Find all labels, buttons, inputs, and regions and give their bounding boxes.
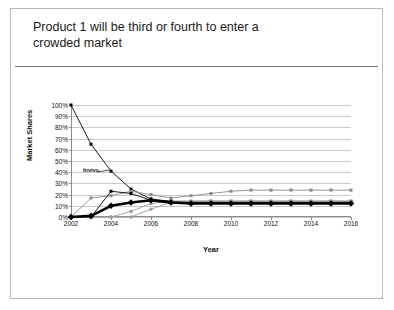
market-share-chart: Market Shares Year 0%10%20%30%40%50%60%7… [23, 87, 372, 277]
data-point [290, 189, 293, 192]
data-point [130, 210, 133, 213]
title-divider [15, 66, 378, 67]
data-point [90, 196, 93, 199]
y-tick-label: 20% [55, 191, 68, 198]
y-tick-label: 50% [55, 158, 68, 165]
data-point [270, 189, 273, 192]
y-axis-label: Market Shares [25, 110, 34, 161]
data-point [128, 199, 135, 206]
x-tick-mark [191, 217, 192, 220]
y-tick-label: 90% [55, 113, 68, 120]
x-tick-mark [351, 217, 352, 220]
slide: Product 1 will be third or fourth to ent… [10, 8, 383, 299]
x-tick-label: 2010 [224, 220, 238, 227]
y-tick-label: 100% [51, 102, 68, 109]
x-tick-label: 2004 [104, 220, 118, 227]
x-tick-label: 2016 [344, 220, 358, 227]
y-tick-label: 80% [55, 124, 68, 131]
data-point [210, 192, 213, 195]
data-point [310, 189, 313, 192]
x-tick-label: 2002 [64, 220, 78, 227]
x-tick-label: 2008 [184, 220, 198, 227]
x-tick-mark [271, 217, 272, 220]
x-tick-mark [231, 217, 232, 220]
x-tick-label: 2012 [264, 220, 278, 227]
y-tick-label: 70% [55, 135, 68, 142]
y-tick-label: 40% [55, 169, 68, 176]
data-point [330, 189, 333, 192]
x-axis-label: Year [203, 245, 219, 254]
data-point [130, 192, 133, 195]
y-tick-label: 60% [55, 146, 68, 153]
x-tick-label: 2014 [304, 220, 318, 227]
data-point [90, 143, 93, 146]
title-block: Product 1 will be third or fourth to ent… [33, 19, 363, 51]
data-point [110, 216, 113, 219]
data-point [168, 199, 175, 206]
data-point [110, 194, 113, 197]
y-tick-label: 30% [55, 180, 68, 187]
series-layer [71, 105, 351, 217]
page-title: Product 1 will be third or fourth to ent… [33, 19, 363, 51]
data-point [170, 196, 173, 199]
data-point [110, 170, 113, 173]
x-tick-mark [151, 217, 152, 220]
x-tick-label: 2006 [144, 220, 158, 227]
series-annotation-invivo: Invivo [83, 167, 99, 173]
data-point [350, 189, 353, 192]
data-point [110, 190, 113, 193]
data-point [230, 190, 233, 193]
data-point [70, 104, 73, 107]
plot-area: 0%10%20%30%40%50%60%70%80%90%100% 200220… [71, 105, 351, 217]
data-point [250, 189, 253, 192]
x-tick-mark [311, 217, 312, 220]
data-point [130, 216, 133, 219]
y-tick-label: 10% [55, 202, 68, 209]
data-point [150, 208, 153, 211]
data-point [150, 193, 153, 196]
data-point [190, 194, 193, 197]
